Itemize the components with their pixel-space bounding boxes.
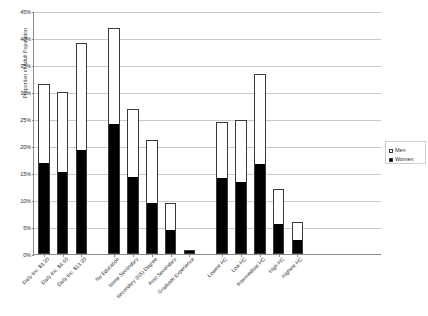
legend-label: Men <box>395 146 406 155</box>
stacked-bar[interactable] <box>216 122 228 254</box>
stacked-bar[interactable] <box>127 109 139 254</box>
legend-swatch-women <box>389 158 393 162</box>
stacked-bar[interactable] <box>38 84 50 254</box>
bar-segment-women[interactable] <box>39 163 49 253</box>
bar-segment-women[interactable] <box>255 164 265 253</box>
y-tick-label: 25% <box>20 117 31 123</box>
stacked-bar[interactable] <box>235 120 247 254</box>
y-tick-label: 15% <box>20 171 31 177</box>
y-tick-label: 40% <box>20 36 31 42</box>
bar-segment-women[interactable] <box>147 203 157 253</box>
bar-group[interactable]: Post Secondary <box>165 11 177 254</box>
bar-group[interactable]: Some Secondary <box>127 11 139 254</box>
y-tick-label: 30% <box>20 90 31 96</box>
y-tick-mark <box>32 255 34 256</box>
stacked-bar[interactable] <box>273 189 285 254</box>
x-tick-label: Low HC <box>230 256 247 273</box>
stacked-bar[interactable] <box>146 140 158 254</box>
x-tick-label: Lowest HC <box>206 256 228 278</box>
y-tick-label: 20% <box>20 144 31 150</box>
chart-legend: MenWomen <box>389 146 413 164</box>
chart-container: Proportion of Adult Population 0%5%10%15… <box>0 0 428 316</box>
bars-layer: Daily Inc. $3.30Daily Inc. $6.60Daily In… <box>34 12 381 254</box>
bar-segment-women[interactable] <box>109 124 119 253</box>
legend-item[interactable]: Women <box>389 155 413 164</box>
bar-group[interactable]: Daily Inc. $6.60 <box>57 11 69 254</box>
bar-group[interactable]: Daily Inc. $13.30 <box>76 11 88 254</box>
bar-group[interactable]: Low HC <box>235 11 247 254</box>
bar-group[interactable]: Highest HC <box>292 11 304 254</box>
x-tick-label: Graduate Experience <box>157 256 196 295</box>
bar-segment-women[interactable] <box>77 150 87 253</box>
bar-group[interactable]: Graduate Experience <box>184 11 196 254</box>
bar-segment-women[interactable] <box>185 251 195 253</box>
stacked-bar[interactable] <box>108 28 120 254</box>
bar-segment-women[interactable] <box>128 177 138 253</box>
legend-item[interactable]: Men <box>389 146 413 155</box>
y-tick-label: 5% <box>23 225 31 231</box>
y-tick-label: 10% <box>20 198 31 204</box>
y-tick-label: 45% <box>20 9 31 15</box>
bar-segment-women[interactable] <box>274 224 284 253</box>
stacked-bar[interactable] <box>292 222 304 254</box>
bar-group[interactable]: Intermediate HC <box>254 11 266 254</box>
legend-swatch-men <box>389 149 393 153</box>
plot-area: 0%5%10%15%20%25%30%35%40%45% Daily Inc. … <box>33 12 381 255</box>
bar-segment-women[interactable] <box>236 182 246 253</box>
stacked-bar[interactable] <box>76 43 88 254</box>
bar-group[interactable]: Lowest HC <box>216 11 228 254</box>
legend-label: Women <box>395 155 413 164</box>
bar-segment-women[interactable] <box>293 240 303 254</box>
bar-segment-women[interactable] <box>166 230 176 253</box>
stacked-bar[interactable] <box>57 92 69 254</box>
stacked-bar[interactable] <box>165 203 177 254</box>
bar-group[interactable]: No Education <box>108 11 120 254</box>
y-tick-label: 0% <box>23 252 31 258</box>
stacked-bar[interactable] <box>254 74 266 254</box>
bar-segment-women[interactable] <box>217 178 227 253</box>
bar-group[interactable]: Secondary (HS) Degree <box>146 11 158 254</box>
bar-group[interactable]: Daily Inc. $3.30 <box>38 11 50 254</box>
bar-group[interactable]: High HC <box>273 11 285 254</box>
y-tick-label: 35% <box>20 63 31 69</box>
bar-segment-women[interactable] <box>58 172 68 253</box>
